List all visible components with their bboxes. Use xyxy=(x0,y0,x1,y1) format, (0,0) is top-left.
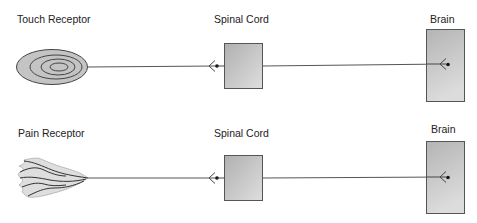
touch-ascending-tract xyxy=(263,64,448,66)
free-nerve-ending-icon xyxy=(18,158,88,197)
neural-pathway-diagram: Touch Receptor Spinal Cord Brain Pain Re… xyxy=(0,0,477,223)
touch-pathway xyxy=(17,30,465,102)
spinal-cord-box-bottom xyxy=(225,156,263,201)
touch-afferent-nerve xyxy=(88,66,217,67)
concentric-ellipses-icon xyxy=(17,50,88,85)
spinal-cord-box-top xyxy=(225,44,263,89)
brain-box-top xyxy=(427,30,465,102)
pain-pathway xyxy=(18,142,464,214)
pain-ascending-tract xyxy=(263,177,448,178)
diagram-graphics xyxy=(0,0,477,223)
